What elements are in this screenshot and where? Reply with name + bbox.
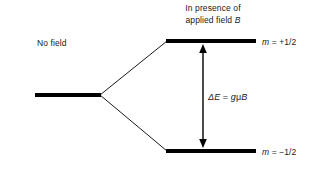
energy-gap-equals-sign: = <box>220 92 231 102</box>
zeeman-splitting-diagram: In presence of applied field B No field … <box>0 0 315 170</box>
upper-level-quantum-number-label: m = +1/2 <box>262 37 296 49</box>
lower-level-m-value: = −1/2 <box>269 147 296 157</box>
energy-gap-delta-e: ΔE <box>208 92 220 102</box>
energy-gap-arrow <box>0 0 315 170</box>
energy-gap-equation: ΔE = gμB <box>208 92 247 104</box>
upper-level-m-value: = +1/2 <box>269 37 296 47</box>
energy-gap-arrowhead-down <box>199 139 207 148</box>
energy-gap-b-field: B <box>241 92 247 102</box>
energy-gap-arrowhead-up <box>199 44 207 53</box>
lower-level-quantum-number-label: m = −1/2 <box>262 147 296 159</box>
